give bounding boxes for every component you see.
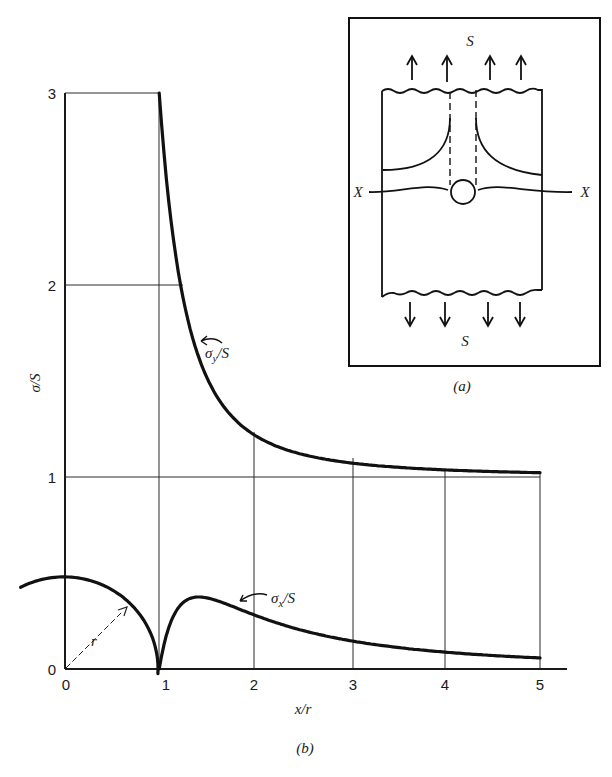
- tension-arrows-up: [407, 56, 526, 82]
- x-axis-label: x/r: [294, 701, 312, 717]
- hole: [451, 180, 475, 204]
- stress-curve-left: [383, 118, 450, 170]
- x-tick-0: 0: [62, 676, 70, 693]
- x-tick-4: 4: [441, 676, 449, 693]
- y-tick-1: 1: [48, 469, 56, 486]
- sigma-x-curve: [159, 597, 540, 669]
- sigma-y-label: σy/S: [205, 345, 229, 364]
- tension-arrows-down: [405, 302, 525, 326]
- x-tick-2: 2: [250, 676, 258, 693]
- inset-diagram: S X X S: [349, 18, 600, 366]
- radius-label: r: [91, 633, 97, 649]
- panel-b-label: (b): [296, 740, 314, 757]
- x-tick-3: 3: [349, 676, 357, 693]
- x-tick-5: 5: [536, 676, 544, 693]
- panel-a-label: (a): [453, 378, 471, 395]
- chart: 0 1 2 3 0 1 2 3 4 5 x/r σ/S r σy/S σx/S: [21, 85, 567, 717]
- hole-boundary-arc: [21, 577, 158, 674]
- top-load-label: S: [466, 33, 474, 49]
- section-label-right: X: [579, 184, 590, 200]
- x-tick-1: 1: [162, 676, 170, 693]
- figure: S X X S (a): [0, 0, 612, 777]
- sigma-y-pointer-icon: [201, 336, 222, 345]
- section-label-left: X: [352, 184, 363, 200]
- y-tick-2: 2: [48, 277, 56, 294]
- y-tick-0: 0: [48, 661, 56, 678]
- bottom-load-label: S: [461, 333, 469, 349]
- y-tick-3: 3: [48, 85, 56, 102]
- sigma-x-label: σx/S: [271, 590, 295, 609]
- y-axis-label: σ/S: [27, 373, 43, 393]
- specimen-top-edge: [382, 89, 542, 93]
- stress-curve-right: [476, 118, 542, 175]
- specimen-bottom-edge: [382, 290, 542, 297]
